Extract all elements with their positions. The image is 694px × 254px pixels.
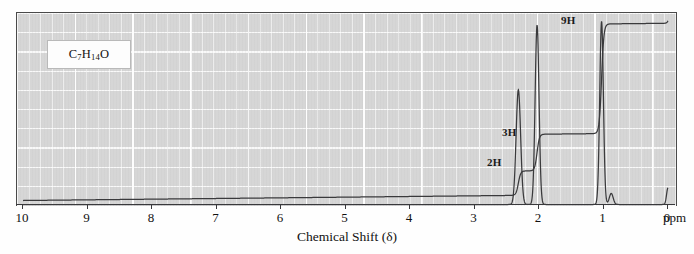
x-axis-tick-label: 1: [599, 210, 606, 226]
x-axis-tick: [22, 204, 23, 209]
x-axis-title: Chemical Shift (δ): [0, 229, 694, 245]
x-axis-tick-label: 2: [535, 210, 542, 226]
x-axis-tick-label: 10: [16, 210, 29, 226]
molecular-formula-label: C7H14O: [47, 40, 131, 69]
integration-label-3h: 3H: [502, 126, 517, 138]
x-axis-tick: [603, 204, 604, 209]
spectrum-baseline: [16, 204, 675, 205]
nmr-spectrum-figure: C7H14O 2H 3H 9H 109876543210 ppm Chemica…: [0, 0, 694, 254]
x-axis-tick-label: 8: [148, 210, 155, 226]
x-axis-tick: [667, 204, 668, 209]
x-axis-tick-label: 5: [341, 210, 348, 226]
integration-label-9h: 9H: [561, 14, 576, 26]
formula-text: C7H14O: [69, 47, 110, 62]
x-axis-tick-label: 6: [277, 210, 284, 226]
x-axis-tick: [474, 204, 475, 209]
x-axis-tick: [216, 204, 217, 209]
spectrum-plot-area: C7H14O: [16, 12, 677, 206]
x-axis-tick: [409, 204, 410, 209]
x-axis-tick: [151, 204, 152, 209]
x-axis-tick: [87, 204, 88, 209]
x-axis-tick-label: 3: [470, 210, 477, 226]
x-axis-tick: [280, 204, 281, 209]
x-axis-tick-label: 4: [406, 210, 413, 226]
ppm-unit-label: ppm: [663, 210, 686, 226]
integration-label-2h: 2H: [487, 156, 502, 168]
x-axis-tick: [538, 204, 539, 209]
x-axis-tick: [345, 204, 346, 209]
x-axis-tick-label: 7: [212, 210, 219, 226]
x-axis-tick-label: 9: [83, 210, 90, 226]
